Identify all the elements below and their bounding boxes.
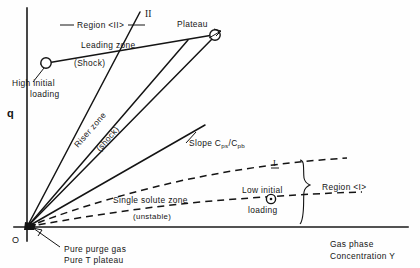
x-axis-label-2: Concentration Y	[330, 251, 395, 261]
single-solute-unstable-label: (unstable)	[133, 212, 171, 221]
single-solute-zone-label: Single solute zone	[113, 195, 188, 205]
slope-divider: /C	[229, 138, 238, 148]
brace-path	[300, 160, 310, 224]
high-initial-loading-label-1: High initial	[12, 78, 55, 88]
axis-group	[14, 8, 408, 241]
slope-sub-pb: pb	[238, 142, 246, 149]
low-initial-loading-dot	[270, 198, 273, 201]
schematic-diagram: q O Region <II> II Leading zone (Shock) …	[0, 0, 420, 268]
plateau-label: Plateau	[177, 19, 208, 29]
riser-zone-shock-label: (shock)	[94, 124, 121, 153]
high-initial-loading-marker	[41, 58, 51, 68]
leading-zone-shock-label: (Shock)	[74, 58, 105, 68]
curve-one-label: I	[273, 158, 276, 168]
origin-note-label-1: Pure purge gas	[64, 244, 126, 254]
slope-label-main: Slope C	[189, 138, 221, 148]
slope-label: Slope Cps/Cpb	[189, 138, 245, 149]
origin-label: O	[12, 235, 19, 245]
region-one-label: Region <I>	[322, 182, 366, 192]
low-initial-loading-label-1: Low initial	[242, 185, 283, 195]
origin-note-leader	[33, 228, 60, 247]
y-axis-label: q	[7, 107, 14, 119]
x-axis-label-1: Gas phase	[330, 239, 374, 249]
figure-root: q O Region <II> II Leading zone (Shock) …	[0, 0, 420, 268]
region-two-label: Region <II>	[77, 20, 124, 30]
origin-note-label-2: Pure T plateau	[64, 255, 124, 265]
high-initial-loading-label-2: loading	[30, 89, 59, 99]
leading-zone-label: Leading zone	[81, 40, 136, 50]
slope-sub-ps: ps	[221, 142, 228, 149]
low-initial-loading-label-2: loading	[248, 205, 277, 215]
curve-I-upper-dashed	[27, 158, 347, 227]
region-one-brace	[300, 160, 310, 224]
curve-two-label: II	[145, 9, 151, 19]
